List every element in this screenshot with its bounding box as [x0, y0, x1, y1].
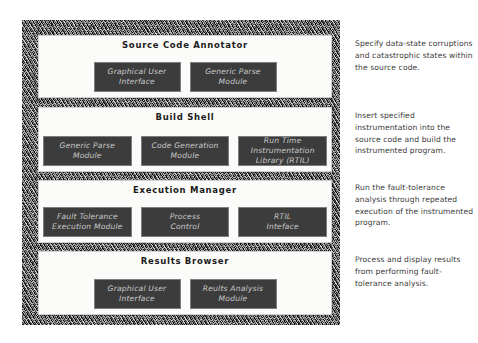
- module-line-2: Execution Module: [52, 222, 123, 231]
- module-line-2: Control: [170, 222, 199, 231]
- module-line-2: Interface: [119, 294, 155, 303]
- module-row-source-code-annotator: Graphical User Interface Generic Parse M…: [43, 62, 327, 92]
- panel-title-source-code-annotator: Source Code Annotator: [39, 40, 331, 50]
- panel-build-shell: Build Shell Generic Parse Module Code Ge…: [38, 107, 332, 172]
- module-run-time-instrumentation-library[interactable]: Run Time Instrumentation Library (RTIL): [238, 136, 327, 166]
- module-line-2: Library (RTIL): [256, 156, 310, 165]
- module-generic-parse-module[interactable]: Generic Parse Module: [43, 136, 132, 166]
- panel-results-browser: Results Browser Graphical User Interface…: [38, 251, 332, 315]
- panel-title-build-shell: Build Shell: [39, 112, 331, 122]
- module-line-2: Interface: [119, 77, 155, 86]
- module-row-results-browser: Graphical User Interface Reults Analysis…: [43, 279, 327, 309]
- annotation-source-code-annotator: Specify data-state corruptions and catas…: [355, 38, 475, 73]
- annotation-build-shell: Insert specified instrumentation into th…: [355, 110, 475, 157]
- panel-title-results-browser: Results Browser: [39, 256, 331, 266]
- module-line-2: Module: [171, 151, 200, 160]
- module-line-1: Reults Analysis: [203, 284, 264, 293]
- module-code-generation-module[interactable]: Code Generation Module: [141, 136, 230, 166]
- module-line-2: Inteface: [266, 222, 298, 231]
- panel-title-execution-manager: Execution Manager: [39, 185, 331, 195]
- module-line-1: Generic Parse: [205, 67, 260, 76]
- module-line-1: Code Generation: [151, 141, 218, 150]
- module-results-analysis-module[interactable]: Reults Analysis Module: [190, 279, 277, 309]
- annotation-execution-manager: Run the fault-tolerance analysis through…: [355, 182, 475, 229]
- module-line-1: Run Time Instrumentation: [251, 136, 315, 155]
- module-line-1: Process: [170, 212, 201, 221]
- module-line-1: Graphical User: [108, 67, 167, 76]
- annotation-results-browser: Process and display results from perform…: [355, 254, 475, 289]
- module-line-1: RTIL: [274, 212, 291, 221]
- module-line-1: Fault Tolerance: [57, 212, 118, 221]
- panel-execution-manager: Execution Manager Fault Tolerance Execut…: [38, 180, 332, 243]
- panel-source-code-annotator: Source Code Annotator Graphical User Int…: [38, 35, 332, 98]
- module-line-1: Graphical User: [108, 284, 167, 293]
- module-line-2: Module: [219, 294, 248, 303]
- module-line-2: Module: [219, 77, 248, 86]
- module-graphical-user-interface[interactable]: Graphical User Interface: [94, 279, 181, 309]
- module-line-2: Module: [73, 151, 102, 160]
- module-line-1: Generic Parse: [60, 141, 115, 150]
- module-process-control[interactable]: Process Control: [141, 207, 230, 237]
- module-row-execution-manager: Fault Tolerance Execution Module Process…: [43, 207, 327, 237]
- module-row-build-shell: Generic Parse Module Code Generation Mod…: [43, 136, 327, 166]
- module-graphical-user-interface[interactable]: Graphical User Interface: [94, 62, 181, 92]
- module-rtil-interface[interactable]: RTIL Inteface: [238, 207, 327, 237]
- diagram-canvas: Source Code Annotator Graphical User Int…: [0, 0, 478, 343]
- module-generic-parse-module[interactable]: Generic Parse Module: [190, 62, 277, 92]
- module-fault-tolerance-execution-module[interactable]: Fault Tolerance Execution Module: [43, 207, 132, 237]
